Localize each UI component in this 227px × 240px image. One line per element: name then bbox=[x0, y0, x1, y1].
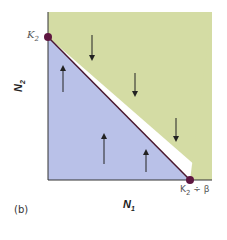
x-axis-subscript: 1 bbox=[131, 205, 135, 212]
x-intercept-point bbox=[186, 176, 194, 184]
y-intercept-subscript: 2 bbox=[34, 35, 38, 43]
y-intercept-label: K2 bbox=[27, 29, 39, 43]
x-intercept-label: K2 ÷ β bbox=[180, 184, 209, 197]
y-axis-subscript: 2 bbox=[19, 80, 26, 84]
y-axis-symbol: N bbox=[12, 84, 24, 92]
panel-label: (b) bbox=[14, 204, 28, 215]
y-axis-label: N2 bbox=[12, 80, 26, 92]
x-axis-symbol: N bbox=[123, 198, 131, 210]
x-axis-label: N1 bbox=[123, 198, 135, 212]
x-intercept-suffix: ÷ β bbox=[190, 184, 209, 194]
y-intercept-point bbox=[44, 33, 52, 41]
